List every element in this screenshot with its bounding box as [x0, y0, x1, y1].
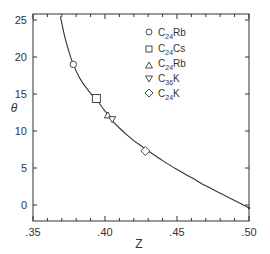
legend-item: C36K — [146, 73, 181, 86]
legend-rest: K — [173, 88, 180, 99]
y-tick-label: 5 — [21, 162, 27, 174]
legend-rest: K — [173, 73, 180, 84]
diamond-marker — [141, 146, 150, 155]
legend-sub: 24 — [165, 64, 173, 71]
legend-base: C — [158, 88, 165, 99]
y-tick-label: 10 — [15, 125, 27, 137]
legend-sub: 24 — [165, 33, 173, 40]
legend: C24Rb C24Cs C24Rb C36K C24K — [145, 27, 186, 101]
legend-sub: 24 — [165, 94, 173, 101]
legend-rest: Cs — [173, 43, 185, 54]
svg-text:C24Rb: C24Rb — [158, 58, 186, 71]
x-tick-label: .40 — [97, 226, 112, 238]
data-markers — [70, 61, 150, 155]
triangle-down-icon — [146, 76, 153, 82]
y-tick-label: 15 — [15, 88, 27, 100]
legend-item: C24Rb — [146, 58, 187, 71]
y-tick-label: 0 — [21, 199, 27, 211]
legend-item: C24K — [145, 88, 180, 101]
y-tick-label: 25 — [15, 14, 27, 26]
legend-item: C24Cs — [146, 43, 185, 56]
legend-base: C — [158, 27, 165, 38]
y-axis-label: θ — [11, 101, 18, 115]
square-icon — [146, 46, 152, 52]
triangle-up-icon — [146, 62, 153, 68]
plot-frame — [33, 14, 249, 221]
legend-base: C — [158, 73, 165, 84]
svg-text:C24Rb: C24Rb — [158, 27, 186, 40]
theory-curve — [60, 16, 249, 208]
diamond-icon — [145, 89, 153, 97]
legend-sub: 36 — [165, 79, 173, 86]
legend-sub: 24 — [165, 49, 173, 56]
legend-item: C24Rb — [146, 27, 186, 40]
square-marker — [92, 94, 100, 102]
x-axis-ticks — [33, 14, 249, 221]
legend-rest: Rb — [173, 58, 186, 69]
circle-icon — [146, 29, 152, 35]
x-tick-label: .50 — [241, 226, 256, 238]
y-tick-label: 20 — [15, 51, 27, 63]
svg-text:C36K: C36K — [158, 73, 180, 86]
legend-base: C — [158, 43, 165, 54]
y-axis-ticks — [33, 20, 249, 205]
x-tick-label: .35 — [25, 226, 40, 238]
triangle-down-marker — [109, 117, 116, 123]
curve-end-dot — [248, 207, 250, 209]
x-tick-label: .45 — [169, 226, 184, 238]
circle-marker — [70, 61, 76, 67]
svg-text:C24Cs: C24Cs — [158, 43, 185, 56]
x-axis-label: Z — [135, 237, 142, 251]
legend-base: C — [158, 58, 165, 69]
legend-rest: Rb — [173, 27, 186, 38]
svg-text:C24K: C24K — [158, 88, 180, 101]
chart: .35 .40 .45 .50 0 5 10 15 20 25 Z θ C24R… — [0, 0, 270, 254]
